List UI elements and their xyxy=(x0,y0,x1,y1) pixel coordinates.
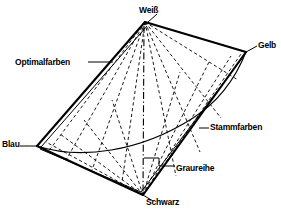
dashed-weiss-to-hue-8 xyxy=(145,22,238,80)
edge-weiss-gelb xyxy=(145,22,246,52)
dashed-schwarz-to-hue-3 xyxy=(84,120,143,195)
annotation-label-graureihe: Graureihe xyxy=(176,164,214,173)
dashed-weiss-to-hue-6 xyxy=(145,22,200,152)
annotation-leader-lines xyxy=(20,14,257,201)
annotation-label-stammfarben: Stammfarben xyxy=(210,123,262,132)
vertex-label-blau: Blau xyxy=(2,140,20,149)
annotation-label-optimalfarben: Optimalfarben xyxy=(15,58,70,67)
vertex-label-gelb: Gelb xyxy=(258,41,276,50)
diagram-canvas xyxy=(0,0,281,217)
vertex-label-schwarz: Schwarz xyxy=(146,198,179,207)
leader-graureihe xyxy=(144,158,175,166)
edge-weiss-blau xyxy=(37,22,145,146)
dashed-weiss-to-hue-3 xyxy=(92,22,145,170)
color-solid-diagram: Weiß Gelb Blau Schwarz Optimalfarben Sta… xyxy=(0,0,281,217)
leader-weiss xyxy=(147,14,157,23)
dashed-schwarz-to-hue-5 xyxy=(143,72,180,195)
dashed-weiss-to-hue-2 xyxy=(66,22,145,160)
vertex-label-weiss: Weiß xyxy=(139,6,158,15)
inner-edge-weiss-blau-a xyxy=(41,26,147,147)
graureihe-axis xyxy=(143,26,144,193)
dashed-weiss-to-hue-1 xyxy=(48,22,145,152)
dashed-weiss-to-hue-5 xyxy=(145,22,176,176)
leader-gelb xyxy=(246,46,257,52)
optimalfarben-boundary-curve xyxy=(37,52,246,153)
